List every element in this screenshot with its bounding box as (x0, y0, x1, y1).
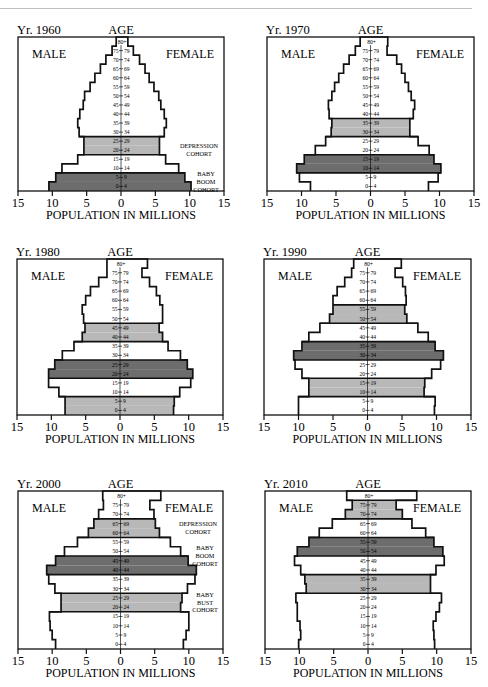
age-group-end: 59 (124, 84, 130, 90)
age-axis-title: AGE (108, 23, 134, 37)
age-axis-title: AGE (355, 245, 381, 259)
age-group-start: 75 (112, 270, 118, 276)
age-group-end: 39 (371, 576, 377, 582)
age-group-start: 60 (359, 297, 365, 303)
age-group-end: 59 (374, 84, 380, 90)
age-group-start: 15 (362, 156, 368, 162)
age-group-end: 29 (371, 362, 377, 368)
age-group-end: 9 (374, 174, 377, 180)
age-group-start: 40 (112, 334, 118, 340)
age-group-end: 49 (371, 558, 377, 564)
age-group-start: 50 (112, 548, 118, 554)
age-group-start: 60 (112, 297, 118, 303)
age-group-start: 75 (359, 270, 365, 276)
age-group-start: 60 (113, 75, 119, 81)
age-group-end: 24 (124, 604, 130, 610)
age-group-start: 10 (113, 165, 119, 171)
age-group-end: 59 (123, 306, 129, 312)
age-group-end: 79 (123, 270, 129, 276)
age-group-start: 55 (360, 539, 366, 545)
age-group-end: 19 (124, 156, 130, 162)
age-group-end: 19 (374, 156, 380, 162)
age-group-end: 29 (371, 595, 377, 601)
age-group-start: 35 (112, 576, 118, 582)
age-group-end: 59 (371, 306, 377, 312)
age-group-start: 15 (113, 156, 119, 162)
age-group-end: 69 (374, 66, 380, 72)
age-group-end: 24 (371, 604, 377, 610)
pyramid-panel-1980: 0459101415192024252930343539404445495054… (11, 245, 230, 446)
age-group-start: 35 (359, 343, 365, 349)
age-group-start: 20 (113, 147, 119, 153)
age-group-end: 74 (371, 511, 377, 517)
age-group-start: 45 (112, 325, 118, 331)
age-group-start: 70 (362, 57, 368, 63)
age-group-start: 55 (359, 306, 365, 312)
age-group-start: 10 (360, 623, 366, 629)
age-bar (103, 491, 161, 500)
age-group-start: 35 (112, 343, 118, 349)
x-tick-label: 15 (217, 654, 230, 668)
age-group-end: 39 (124, 576, 130, 582)
age-group-end: 4 (371, 407, 374, 413)
cohort-annotation: COHORT (186, 150, 212, 157)
age-group-start: 70 (112, 279, 118, 285)
age-group-end: 54 (371, 548, 377, 554)
x-tick-label: 15 (259, 654, 272, 668)
age-group-80plus: 80+ (118, 39, 127, 45)
panel-year-title: Yr. 1960 (17, 23, 61, 37)
age-group-start: 0 (115, 407, 118, 413)
age-group-end: 9 (371, 398, 374, 404)
age-group-end: 69 (123, 288, 129, 294)
age-group-start: 45 (112, 558, 118, 564)
age-group-start: 75 (113, 48, 119, 54)
female-label: FEMALE (413, 501, 461, 515)
age-group-start: 50 (360, 548, 366, 554)
age-group-end: 64 (371, 530, 377, 536)
cohort-annotation: COHORT (192, 606, 218, 613)
pyramid-panel-1960: 0459101415192024252930343539404445495054… (12, 23, 231, 222)
age-group-end: 39 (374, 120, 380, 126)
age-group-start: 70 (359, 279, 365, 285)
age-group-end: 14 (124, 623, 130, 629)
age-group-80plus: 80+ (365, 493, 374, 499)
age-group-end: 79 (124, 48, 130, 54)
age-group-start: 40 (112, 567, 118, 573)
age-group-end: 14 (371, 623, 377, 629)
age-group-end: 19 (371, 380, 377, 386)
age-group-start: 30 (362, 129, 368, 135)
x-tick-label: 15 (261, 196, 274, 210)
age-group-end: 44 (123, 334, 129, 340)
age-group-end: 54 (371, 316, 377, 322)
age-group-end: 74 (374, 57, 380, 63)
age-group-end: 44 (124, 111, 130, 117)
x-tick-label: 15 (217, 420, 230, 434)
female-label: FEMALE (166, 47, 214, 61)
age-group-start: 25 (112, 595, 118, 601)
age-group-start: 25 (360, 595, 366, 601)
panel-year-title: Yr. 1990 (263, 245, 307, 259)
age-group-end: 49 (123, 325, 129, 331)
age-group-start: 25 (113, 138, 119, 144)
age-group-end: 64 (374, 75, 380, 81)
age-group-start: 60 (360, 530, 366, 536)
age-group-end: 4 (124, 641, 127, 647)
age-group-end: 79 (124, 502, 130, 508)
x-tick-label: 15 (12, 654, 25, 668)
age-group-end: 24 (124, 147, 130, 153)
age-group-end: 64 (124, 75, 130, 81)
cohort-annotation: COHORT (185, 528, 211, 535)
age-group-start: 5 (115, 398, 118, 404)
age-group-start: 50 (113, 93, 119, 99)
x-axis-title: POPULATION IN MILLIONS (296, 208, 446, 222)
age-group-end: 19 (123, 380, 129, 386)
age-group-end: 69 (371, 521, 377, 527)
age-group-start: 35 (113, 120, 119, 126)
age-group-start: 35 (362, 120, 368, 126)
pyramid-panel-1990: 0459101415192024252930343539404445495054… (258, 245, 478, 446)
age-group-80plus: 80+ (367, 39, 376, 45)
age-group-start: 70 (112, 511, 118, 517)
x-axis-title: POPULATION IN MILLIONS (46, 666, 196, 680)
age-group-start: 20 (360, 604, 366, 610)
age-group-start: 15 (112, 380, 118, 386)
